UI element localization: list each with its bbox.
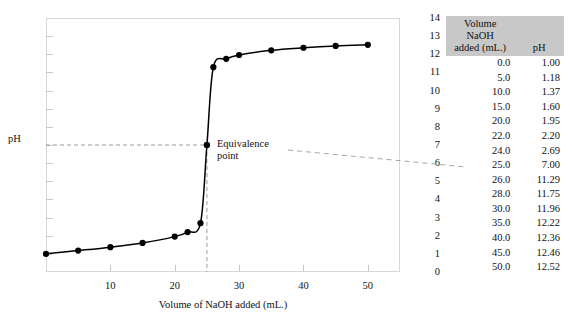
table-header-row: Volume NaOH added (mL.) pH	[446, 16, 564, 56]
cell-ph: 12.36	[514, 231, 564, 246]
table-row: 5.01.18	[446, 71, 564, 86]
table-row: 35.012.22	[446, 217, 564, 232]
cell-volume: 0.0	[446, 56, 514, 71]
column-header-ph: pH	[514, 16, 564, 56]
cell-volume: 5.0	[446, 71, 514, 86]
cell-volume: 28.0	[446, 187, 514, 202]
ph-data-table: Volume NaOH added (mL.) pH 0.01.005.01.1…	[446, 16, 564, 275]
cell-ph: 7.00	[514, 158, 564, 173]
equivalence-leader-line	[288, 150, 466, 167]
cell-volume: 24.0	[446, 144, 514, 159]
cell-volume: 20.0	[446, 115, 514, 130]
equivalence-point-label: Equivalence point	[217, 138, 269, 162]
cell-volume: 35.0	[446, 217, 514, 232]
data-point-50	[365, 42, 371, 48]
cell-volume: 25.0	[446, 158, 514, 173]
cell-volume: 45.0	[446, 246, 514, 261]
cell-ph: 12.22	[514, 217, 564, 232]
data-point-40	[300, 45, 306, 51]
table-row: 26.011.29	[446, 173, 564, 188]
cell-ph: 1.37	[514, 85, 564, 100]
column-header-volume-line1: Volume NaOH	[464, 18, 496, 41]
cell-ph: 11.29	[514, 173, 564, 188]
data-point-24	[197, 220, 203, 226]
figure-root: 01234567891011121314 1020304050 pH Volum…	[0, 0, 572, 316]
cell-ph: 1.00	[514, 56, 564, 71]
table-row: 20.01.95	[446, 115, 564, 130]
data-point-28	[223, 56, 229, 62]
table-header: Volume NaOH added (mL.) pH	[446, 16, 564, 56]
cell-ph: 2.69	[514, 144, 564, 159]
titration-chart: 01234567891011121314 1020304050 pH Volum…	[0, 0, 440, 316]
cell-volume: 15.0	[446, 100, 514, 115]
table-body: 0.01.005.01.1810.01.3715.01.6020.01.9522…	[446, 56, 564, 275]
table-row: 10.01.37	[446, 85, 564, 100]
data-point-22	[185, 229, 191, 235]
table-row: 28.011.75	[446, 187, 564, 202]
data-point-0	[43, 251, 49, 257]
table-row: 40.012.36	[446, 231, 564, 246]
data-point-35	[268, 47, 274, 53]
cell-ph: 1.18	[514, 71, 564, 86]
data-point-30	[236, 52, 242, 58]
data-point-10	[107, 244, 113, 250]
cell-ph: 2.20	[514, 129, 564, 144]
table-row: 24.02.69	[446, 144, 564, 159]
table-row: 0.01.00	[446, 56, 564, 71]
table-row: 50.012.52	[446, 260, 564, 275]
cell-ph: 11.96	[514, 202, 564, 217]
cell-volume: 30.0	[446, 202, 514, 217]
data-point-26	[210, 64, 216, 70]
data-point-15	[139, 240, 145, 246]
cell-volume: 22.0	[446, 129, 514, 144]
table-row: 25.07.00	[446, 158, 564, 173]
data-point-5	[75, 247, 81, 253]
cell-volume: 10.0	[446, 85, 514, 100]
cell-ph: 12.46	[514, 246, 564, 261]
table-row: 45.012.46	[446, 246, 564, 261]
equivalence-point-marker	[204, 142, 210, 148]
table-row: 15.01.60	[446, 100, 564, 115]
data-point-20	[172, 234, 178, 240]
table-row: 22.02.20	[446, 129, 564, 144]
data-table-container: Volume NaOH added (mL.) pH 0.01.005.01.1…	[446, 16, 564, 275]
cell-ph: 12.52	[514, 260, 564, 275]
cell-volume: 50.0	[446, 260, 514, 275]
cell-ph: 1.60	[514, 100, 564, 115]
column-header-volume-line2: added (mL.)	[454, 42, 506, 53]
cell-ph: 1.95	[514, 115, 564, 130]
cell-volume: 26.0	[446, 173, 514, 188]
column-header-volume: Volume NaOH added (mL.)	[446, 16, 514, 56]
cell-volume: 40.0	[446, 231, 514, 246]
data-point-45	[333, 43, 339, 49]
table-row: 30.011.96	[446, 202, 564, 217]
cell-ph: 11.75	[514, 187, 564, 202]
